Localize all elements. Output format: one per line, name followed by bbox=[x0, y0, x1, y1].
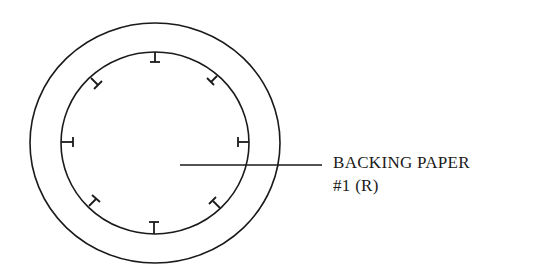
backing-paper-diagram bbox=[0, 0, 549, 280]
tab-bottom bbox=[149, 222, 159, 234]
inner-circle bbox=[61, 52, 249, 234]
tab-top bbox=[150, 52, 160, 62]
tab-top-left bbox=[91, 78, 102, 89]
tab-bottom-right bbox=[209, 197, 220, 208]
tabs bbox=[61, 52, 249, 234]
label-number-r: #1 (R) bbox=[333, 176, 379, 196]
tab-right bbox=[238, 137, 249, 147]
label-backing-paper: BACKING PAPER bbox=[333, 153, 470, 173]
tab-bottom-left bbox=[89, 195, 100, 206]
tab-top-right bbox=[207, 76, 217, 85]
tab-left bbox=[61, 137, 73, 147]
